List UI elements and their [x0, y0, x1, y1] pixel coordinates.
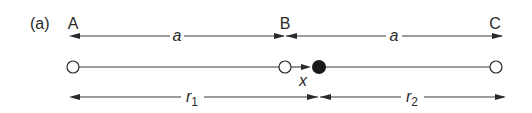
open-circle-b-icon — [279, 61, 291, 73]
point-label-b: B — [280, 15, 291, 32]
arrowhead-left-icon — [69, 94, 80, 100]
filled-charge-icon — [312, 60, 326, 74]
open-circle-c-icon — [490, 61, 502, 73]
arrowhead-left-icon — [69, 33, 80, 39]
arrowhead-right-icon — [492, 33, 503, 39]
displacement-label-x: x — [298, 72, 308, 89]
panel-label: (a) — [30, 15, 50, 32]
arrowhead-right-icon — [495, 94, 506, 100]
arrowhead-left-icon — [320, 94, 331, 100]
arrowhead-right-icon — [274, 33, 285, 39]
arrowhead-left-icon — [286, 33, 297, 39]
dimension-label-r1: r1 — [186, 88, 198, 109]
point-label-a: A — [68, 15, 79, 32]
arrowhead-right-icon — [307, 94, 318, 100]
point-label-c: C — [489, 15, 501, 32]
dimension-label-a-left: a — [173, 27, 182, 44]
dimension-label-a-right: a — [390, 27, 399, 44]
arrowhead-right-icon — [301, 64, 311, 70]
charge-line-diagram: (a) A B C a a x r1 r2 — [0, 0, 532, 113]
open-circle-a-icon — [67, 61, 79, 73]
dimension-label-r2: r2 — [406, 88, 418, 109]
